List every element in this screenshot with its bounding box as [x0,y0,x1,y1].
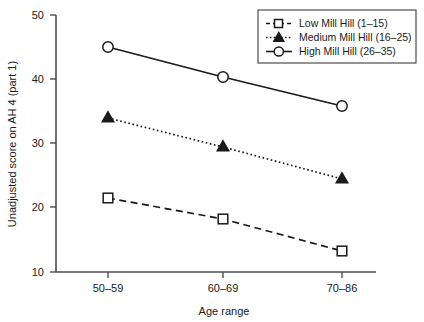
series-medium-point-0 [102,112,114,123]
series-low-mill-hill [103,193,347,256]
series-high-point-0 [103,42,113,52]
series-low-point-2 [337,246,347,256]
y-axis-title: Unadjusted score on AH 4 (part 1) [6,61,18,227]
series-low-point-0 [103,193,113,203]
legend-marker-open-circle-icon [274,47,283,56]
chart-legend: Low Mill Hill (1–15) Medium Mill Hill (1… [258,10,416,63]
x-tick-label-2: 70–86 [327,282,358,294]
series-high-point-2 [337,101,347,111]
series-medium-point-2 [336,173,348,184]
y-tick-label-20: 20 [32,201,44,213]
x-tick-label-0: 50–59 [93,282,124,294]
series-high-point-1 [218,72,228,82]
legend-label-low: Low Mill Hill (1–15) [299,17,388,29]
legend-label-medium: Medium Mill Hill (16–25) [299,31,412,43]
chart-plot-area: 50 40 30 20 10 50–59 60–69 70–86 Age ran… [0,0,424,322]
chart-figure: 50 40 30 20 10 50–59 60–69 70–86 Age ran… [0,0,424,322]
y-tick-label-10: 10 [32,266,44,278]
y-tick-label-50: 50 [32,9,44,21]
y-tick-label-40: 40 [32,73,44,85]
x-tick-label-1: 60–69 [208,282,239,294]
legend-label-high: High Mill Hill (26–35) [299,45,396,57]
y-tick-label-30: 30 [32,137,44,149]
legend-marker-open-square-icon [275,20,283,28]
series-low-point-1 [218,214,228,224]
x-axis-title: Age range [199,305,250,317]
series-medium-mill-hill [102,112,348,184]
